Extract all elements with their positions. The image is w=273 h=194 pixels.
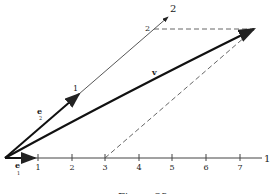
axis-1-tick-3: 3 bbox=[102, 163, 107, 172]
axis-1-tick-2: 2 bbox=[69, 163, 74, 172]
figure-caption: Figure 23 bbox=[118, 191, 168, 194]
vector-decomposition-diagram: 1 2 3 4 5 6 7 1 1 2 2 e 1 e 2 v Figure 2… bbox=[0, 0, 273, 194]
axis-2-tick-2: 2 bbox=[145, 24, 150, 33]
vector-e1-label: e bbox=[15, 160, 20, 170]
vector-e1-subscript: 1 bbox=[17, 170, 20, 176]
axis-1-tick-6: 6 bbox=[203, 163, 208, 172]
vector-v-label: v bbox=[151, 67, 157, 77]
axis-1-tick-4: 4 bbox=[136, 163, 141, 172]
vector-v bbox=[5, 29, 254, 158]
axis-1-tick-5: 5 bbox=[169, 163, 174, 172]
axis-2-label: 2 bbox=[170, 3, 176, 14]
axis-1-tick-1: 1 bbox=[35, 163, 40, 172]
axis-2-tick-1: 1 bbox=[73, 84, 78, 93]
vector-e2 bbox=[5, 94, 79, 158]
vector-e2-subscript: 2 bbox=[39, 115, 42, 121]
axis-1-label: 1 bbox=[264, 153, 270, 164]
axis-1-tick-7: 7 bbox=[237, 163, 242, 172]
